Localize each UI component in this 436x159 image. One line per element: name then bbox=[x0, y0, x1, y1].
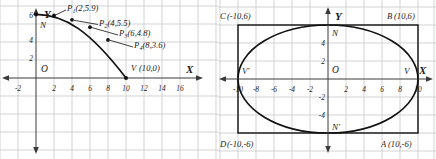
right-panel: Y X O C (-10,6) B (10,6) D (-10,-6) A (1… bbox=[218, 0, 436, 159]
right-xtick--8: -8 bbox=[253, 85, 259, 94]
vertex-V-prime-label: V' bbox=[242, 66, 250, 76]
right-xtick-4: 4 bbox=[362, 85, 366, 94]
label-P2-group: P 2 (4,5.5) bbox=[98, 18, 131, 29]
x-axis-arrow-right-icon bbox=[196, 75, 203, 81]
left-xtick-12: 12 bbox=[140, 84, 148, 93]
left-y-axis-label: Y bbox=[44, 8, 52, 20]
left-vertex-V-coords: (10,0) bbox=[139, 63, 160, 73]
right-xtick--10: -10 bbox=[233, 85, 243, 94]
left-origin-label: O bbox=[41, 64, 48, 74]
corner-C-group: C (-10,6) bbox=[220, 11, 251, 21]
point-P3-dot bbox=[88, 25, 92, 29]
leader-P4 bbox=[110, 40, 133, 47]
left-ytick-4: 4 bbox=[29, 36, 33, 45]
corner-B-label: B bbox=[387, 11, 393, 21]
point-P1-dot bbox=[52, 14, 56, 18]
right-xtick-10: 10 bbox=[414, 85, 422, 94]
corner-C-coords: (-10,6) bbox=[227, 11, 251, 21]
point-P4-dot bbox=[106, 38, 110, 42]
left-vertex-N-label: N bbox=[39, 20, 47, 30]
left-panel: Y X O N V (10,0) P 1 (2,5.9) P 2 (4,5.5) bbox=[0, 0, 218, 159]
right-xtick--4: -4 bbox=[289, 85, 295, 94]
point-P2-dot bbox=[70, 18, 74, 22]
right-ytick--2: -2 bbox=[319, 93, 325, 102]
left-ytick-2: 2 bbox=[29, 54, 33, 63]
corner-B-coords: (10,6) bbox=[394, 11, 415, 21]
left-vertex-V-label: V bbox=[131, 63, 138, 73]
corner-B-group: B (10,6) bbox=[387, 11, 415, 21]
label-P1-group: P 1 (2,5.9) bbox=[66, 3, 99, 14]
corner-A-coords: (10,-6) bbox=[388, 139, 412, 149]
label-P4-coords: (8,3.6) bbox=[143, 40, 166, 50]
right-ytick--4: -4 bbox=[319, 111, 325, 120]
right-xtick-2: 2 bbox=[344, 85, 348, 94]
right-xtick-8: 8 bbox=[398, 85, 402, 94]
left-xtick-8: 8 bbox=[106, 84, 110, 93]
right-xtick-6: 6 bbox=[380, 85, 384, 94]
right-panel-svg: Y X O C (-10,6) B (10,6) D (-10,-6) A (1… bbox=[218, 0, 436, 159]
right-xtick--6: -6 bbox=[271, 85, 277, 94]
point-N-dot bbox=[34, 12, 38, 16]
left-xtick-4: 4 bbox=[70, 84, 74, 93]
left-xtick--2: -2 bbox=[15, 84, 21, 93]
vertex-V-label: V bbox=[404, 66, 411, 76]
left-xtick-2: 2 bbox=[52, 84, 56, 93]
right-xtick--2: -2 bbox=[307, 85, 313, 94]
x-axis-arrow-left-icon bbox=[2, 75, 9, 81]
leader-P1 bbox=[56, 10, 67, 15]
y-axis-arrow-up-icon bbox=[325, 7, 331, 14]
left-xtick-6: 6 bbox=[88, 84, 92, 93]
figure-root: Y X O N V (10,0) P 1 (2,5.9) P 2 (4,5.5) bbox=[0, 0, 436, 159]
left-x-axis-label: X bbox=[185, 63, 194, 75]
left-xtick-10: 10 bbox=[122, 84, 130, 93]
label-P1-coords: (2,5.9) bbox=[76, 3, 99, 13]
left-xtick-16: 16 bbox=[176, 84, 184, 93]
corner-D-group: D (-10,-6) bbox=[219, 139, 254, 149]
corner-D-label: D bbox=[219, 139, 227, 149]
point-V-dot bbox=[124, 76, 128, 80]
right-ytick-4: 4 bbox=[321, 39, 325, 48]
y-axis-arrow-down-icon bbox=[325, 146, 331, 153]
right-y-axis-label: Y bbox=[335, 10, 343, 22]
right-ytick-2: 2 bbox=[321, 57, 325, 66]
left-ytick-6: 6 bbox=[29, 11, 33, 20]
left-xtick-14: 14 bbox=[158, 84, 166, 93]
corner-A-label: A bbox=[380, 139, 387, 149]
corner-A-group: A (10,-6) bbox=[380, 139, 412, 149]
y-axis-arrow-down-icon bbox=[33, 147, 39, 154]
right-origin-label: O bbox=[332, 65, 339, 75]
label-P3-coords: (6,4.8) bbox=[128, 28, 151, 38]
left-vertex-V-group: V (10,0) bbox=[131, 63, 160, 73]
corner-D-coords: (-10,-6) bbox=[227, 139, 254, 149]
label-P3-group: P 3 (6,4.8) bbox=[118, 28, 151, 39]
label-P2-coords: (4,5.5) bbox=[108, 18, 131, 28]
vertex-N-prime-label: N' bbox=[331, 122, 341, 132]
x-axis-arrow-right-icon bbox=[426, 76, 433, 82]
left-panel-svg: Y X O N V (10,0) P 1 (2,5.9) P 2 (4,5.5) bbox=[0, 0, 218, 159]
corner-C-label: C bbox=[220, 11, 226, 21]
right-x-axis-label: X bbox=[418, 64, 427, 76]
vertex-N-label: N bbox=[331, 28, 339, 38]
right-axes bbox=[219, 7, 433, 153]
label-P4-group: P 4 (8,3.6) bbox=[133, 40, 166, 51]
